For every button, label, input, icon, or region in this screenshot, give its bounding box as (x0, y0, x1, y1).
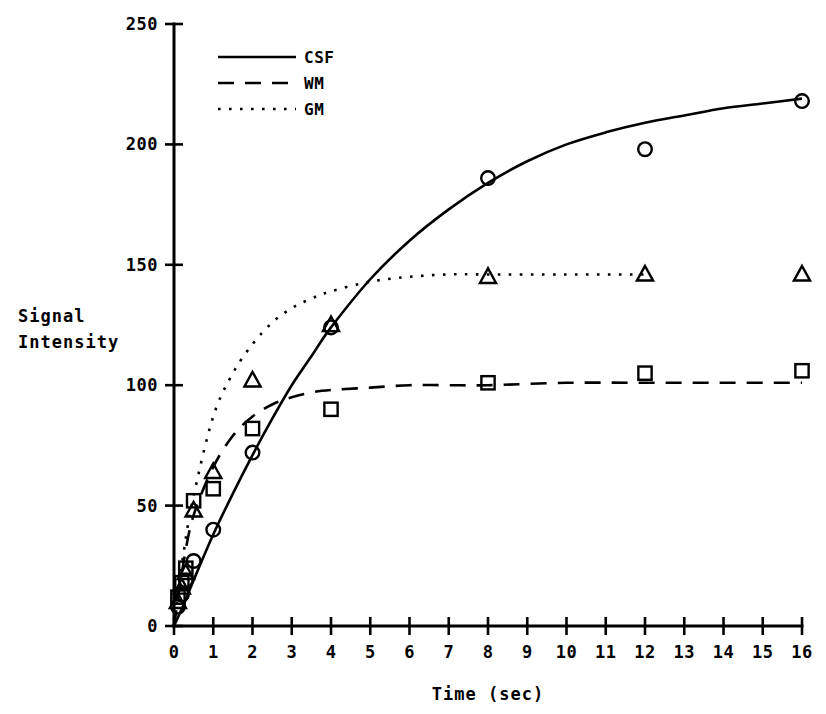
legend-label-wm: WM (304, 74, 324, 93)
x-tick-label: 4 (326, 642, 337, 662)
chart-canvas: 050100150200250 012345678910111213141516… (0, 0, 826, 714)
y-tick-label: 0 (147, 616, 158, 636)
data-point-csf (638, 142, 652, 156)
signal-intensity-chart: 050100150200250 012345678910111213141516… (0, 0, 826, 714)
x-tick-label: 6 (404, 642, 415, 662)
x-tick-label: 0 (169, 642, 180, 662)
x-tick-label: 1 (208, 642, 219, 662)
x-tick-label: 11 (595, 642, 616, 662)
legend-label-csf: CSF (304, 48, 334, 67)
y-tick-label: 250 (126, 14, 158, 34)
x-tick-label: 14 (713, 642, 734, 662)
series-curves (174, 99, 802, 626)
series-markers (170, 94, 810, 613)
data-point-wm (638, 367, 651, 380)
legend-label-gm: GM (304, 100, 324, 119)
data-point-wm (324, 403, 337, 416)
x-tick-label: 9 (522, 642, 533, 662)
data-point-wm (795, 364, 808, 377)
series-curve-gm (174, 274, 645, 626)
y-tick-label: 100 (126, 375, 158, 395)
data-point-csf (795, 94, 809, 108)
x-tick-label: 2 (247, 642, 258, 662)
x-tick-label: 12 (634, 642, 655, 662)
x-tick-label: 10 (556, 642, 577, 662)
x-tick-label: 16 (791, 642, 812, 662)
data-point-wm (246, 422, 259, 435)
data-point-gm (244, 372, 260, 387)
x-axis-ticks: 012345678910111213141516 (169, 617, 813, 662)
x-tick-label: 15 (752, 642, 773, 662)
x-tick-label: 5 (365, 642, 376, 662)
x-axis-title: Time (sec) (432, 684, 544, 704)
legend: CSFWMGM (218, 48, 334, 119)
data-point-wm (207, 482, 220, 495)
x-tick-label: 13 (674, 642, 695, 662)
data-point-gm (794, 266, 810, 281)
y-tick-label: 200 (126, 134, 158, 154)
y-axis-title-line2: Intensity (18, 332, 119, 352)
series-curve-wm (174, 383, 802, 626)
x-tick-label: 7 (443, 642, 454, 662)
y-tick-label: 150 (126, 255, 158, 275)
x-tick-label: 3 (286, 642, 297, 662)
y-tick-label: 50 (137, 496, 158, 516)
x-tick-label: 8 (483, 642, 494, 662)
series-curve-csf (174, 99, 802, 626)
data-point-wm (481, 376, 494, 389)
data-point-gm (205, 463, 221, 478)
y-axis-title-line1: Signal (18, 306, 85, 326)
data-point-gm (637, 266, 653, 281)
